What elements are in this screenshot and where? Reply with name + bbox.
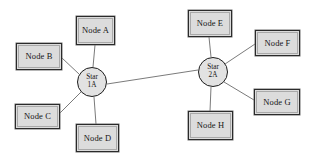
- network-topology-diagram: Node ANode BNode CNode DNode ENode FNode…: [0, 0, 312, 163]
- node-e-label: Node E: [197, 19, 223, 28]
- node-b-label: Node B: [26, 52, 53, 61]
- node-g[interactable]: Node G: [254, 89, 300, 115]
- edge-layer: [0, 0, 312, 163]
- edge-star1a-node-d: [94, 97, 96, 124]
- node-g-label: Node G: [263, 98, 290, 107]
- node-b[interactable]: Node B: [16, 43, 62, 70]
- edge-star2a-node-g: [224, 82, 254, 100]
- node-h[interactable]: Node H: [188, 111, 233, 140]
- node-c[interactable]: Node C: [15, 104, 60, 129]
- edge-star1a-node-b: [62, 58, 79, 74]
- edge-star2a-node-h: [210, 87, 211, 111]
- node-d[interactable]: Node D: [76, 124, 119, 152]
- star-2a-label-line2: 2A: [209, 72, 218, 80]
- node-d-label: Node D: [84, 134, 111, 143]
- edge-star1a-node-a: [93, 45, 95, 67]
- star-1a[interactable]: Star1A: [77, 67, 107, 97]
- edge-star2a-node-f: [225, 44, 255, 64]
- edge-star1a-star2a: [107, 70, 198, 84]
- node-h-label: Node H: [197, 121, 224, 130]
- node-a[interactable]: Node A: [76, 16, 115, 45]
- star-1a-label-line2: 1A: [88, 82, 97, 90]
- edge-star2a-node-e: [209, 37, 211, 57]
- node-f-label: Node F: [265, 39, 291, 48]
- edge-star1a-node-c: [60, 92, 81, 113]
- star-2a[interactable]: Star2A: [198, 57, 228, 87]
- node-a-label: Node A: [82, 26, 109, 35]
- node-e[interactable]: Node E: [188, 10, 232, 37]
- node-c-label: Node C: [24, 112, 51, 121]
- node-f[interactable]: Node F: [255, 30, 300, 56]
